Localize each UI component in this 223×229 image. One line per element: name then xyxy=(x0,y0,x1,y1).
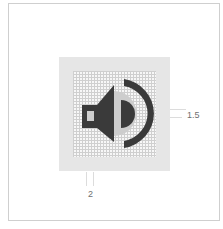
dimension-line-right-top xyxy=(170,109,186,110)
dimension-label-right: 1.5 xyxy=(187,110,200,120)
speaker-cone-shape xyxy=(97,85,114,142)
speaker-box-inner xyxy=(87,111,94,121)
dimension-line-bottom-right xyxy=(93,172,94,186)
dimension-label-bottom: 2 xyxy=(88,189,93,199)
dimension-line-bottom-left xyxy=(86,172,87,186)
dimension-line-right-bottom xyxy=(170,117,182,118)
